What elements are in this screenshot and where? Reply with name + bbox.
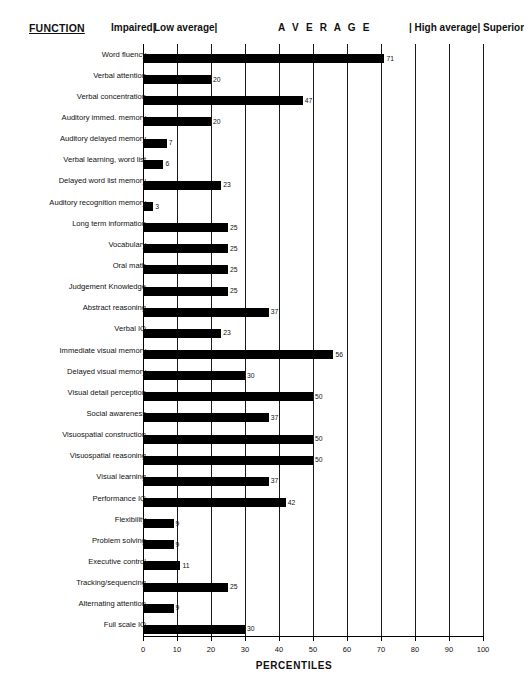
- bar-value-label: 47: [305, 98, 313, 105]
- bar-value-label: 9: [176, 521, 180, 528]
- bar: [143, 308, 269, 317]
- bar: [143, 96, 303, 105]
- x-tick-10: [177, 637, 178, 641]
- bar-row-label: Verbal concentration: [77, 93, 146, 101]
- bar-row: Auditory immed. memory20: [0, 107, 532, 128]
- bar-row: Verbal IQ23: [0, 319, 532, 340]
- zone-label-high-average: | High average|: [409, 22, 480, 33]
- bar-row-label: Performance IQ: [92, 495, 146, 503]
- bar-value-label: 9: [176, 605, 180, 612]
- bar-value-label: 6: [165, 161, 169, 168]
- bar: [143, 287, 228, 296]
- bar-row: Immediate visual memory56: [0, 340, 532, 361]
- x-tick-70: [381, 637, 382, 641]
- bar-row: Delayed word list memory23: [0, 171, 532, 192]
- bar: [143, 583, 228, 592]
- bar-row-label: Flexibility: [115, 516, 146, 524]
- bar-value-label: 25: [230, 288, 238, 295]
- x-tick-100: [483, 637, 484, 641]
- bar-row: Visuospatial reasoning50: [0, 446, 532, 467]
- bar-value-label: 37: [271, 415, 279, 422]
- bar-value-label: 50: [315, 436, 323, 443]
- bar: [143, 477, 269, 486]
- bar: [143, 329, 221, 338]
- bar: [143, 223, 228, 232]
- bar-value-label: 23: [223, 330, 231, 337]
- bar-row-label: Social awareness: [86, 410, 146, 418]
- bar: [143, 413, 269, 422]
- bar: [143, 265, 228, 274]
- bar-row-label: Long term information: [72, 220, 146, 228]
- bar: [143, 456, 313, 465]
- bar-value-label: 56: [335, 352, 343, 359]
- function-column-header: FUNCTION: [29, 22, 85, 34]
- bar-row: Vocabulary25: [0, 234, 532, 255]
- x-tick-label-80: 80: [411, 645, 419, 654]
- bar: [143, 604, 174, 613]
- bar-row: Visuospatial construction50: [0, 425, 532, 446]
- bar-row: Full scale IQ30: [0, 615, 532, 636]
- x-axis-title: PERCENTILES: [0, 660, 532, 671]
- bar-row-label: Auditory delayed memory: [60, 135, 146, 143]
- bar-row-label: Visual learning: [96, 473, 146, 481]
- bar: [143, 244, 228, 253]
- zone-label-impaired: Impaired|: [111, 22, 155, 33]
- x-tick-0: [143, 637, 144, 641]
- bar: [143, 202, 153, 211]
- x-tick-label-90: 90: [445, 645, 453, 654]
- bar-row: Word fluency71: [0, 44, 532, 65]
- bar: [143, 625, 245, 634]
- bar-row: Judgement Knowledge25: [0, 277, 532, 298]
- x-tick-label-40: 40: [275, 645, 283, 654]
- percentile-bar-chart: FUNCTION Impaired|Low average|A V E R A …: [0, 0, 532, 693]
- zone-label-low-average: Low average|: [154, 22, 217, 33]
- x-tick-30: [245, 637, 246, 641]
- x-tick-label-0: 0: [141, 645, 145, 654]
- x-tick-label-20: 20: [207, 645, 215, 654]
- bar-row-label: Delayed word list memory: [59, 177, 146, 185]
- x-tick-40: [279, 637, 280, 641]
- bar: [143, 371, 245, 380]
- bar-value-label: 50: [315, 394, 323, 401]
- x-tick-90: [449, 637, 450, 641]
- bar: [143, 160, 163, 169]
- bar: [143, 117, 211, 126]
- bar-value-label: 25: [230, 225, 238, 232]
- bar-row-label: Visuospatial construction: [62, 431, 146, 439]
- bar: [143, 392, 313, 401]
- bar-row: Visual learning37: [0, 467, 532, 488]
- bar-row: Flexibility9: [0, 509, 532, 530]
- bar: [143, 181, 221, 190]
- bar: [143, 435, 313, 444]
- x-tick-label-50: 50: [309, 645, 317, 654]
- x-tick-60: [347, 637, 348, 641]
- bar-row: Auditory delayed memory7: [0, 129, 532, 150]
- x-tick-20: [211, 637, 212, 641]
- bar-row-label: Vocabulary: [108, 241, 146, 249]
- bar-row-label: Visuospatial reasoning: [70, 452, 146, 460]
- bar-row-label: Alternating attention: [78, 600, 146, 608]
- bar-row: Verbal attention20: [0, 65, 532, 86]
- bar-row-label: Judgement Knowledge: [69, 283, 146, 291]
- x-axis-title-text: PERCENTILES: [256, 660, 333, 671]
- bar-row: Auditory recognition memory3: [0, 192, 532, 213]
- x-tick-label-10: 10: [173, 645, 181, 654]
- bar-value-label: 71: [386, 56, 394, 63]
- bar-row-label: Problem solving: [92, 537, 146, 545]
- zone-label-superior: Superior: [483, 22, 524, 33]
- x-tick-label-70: 70: [377, 645, 385, 654]
- x-tick-50: [313, 637, 314, 641]
- bar-row-label: Delayed visual memory: [67, 368, 146, 376]
- bar-row: Tracking/sequencing25: [0, 573, 532, 594]
- bar-row-label: Auditory immed. memory: [62, 114, 146, 122]
- bar-row: Verbal concentration47: [0, 86, 532, 107]
- bar-row: Abstract reasoning37: [0, 298, 532, 319]
- bar-row: Verbal learning, word list6: [0, 150, 532, 171]
- bar-value-label: 37: [271, 478, 279, 485]
- bar-row: Performance IQ42: [0, 488, 532, 509]
- bar: [143, 350, 333, 359]
- bar: [143, 75, 211, 84]
- bar-row-label: Oral math: [113, 262, 146, 270]
- bar-value-label: 30: [247, 373, 255, 380]
- bar-row: Alternating attention9: [0, 594, 532, 615]
